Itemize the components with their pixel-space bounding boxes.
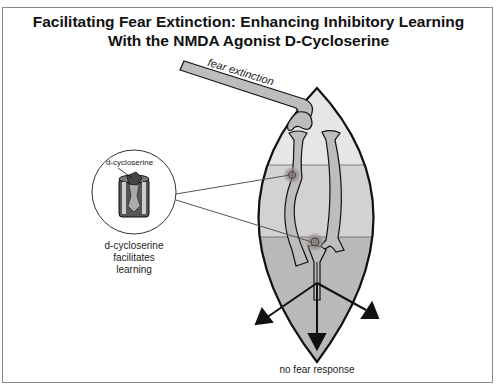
amygdala-lens	[200, 80, 440, 367]
synapse-upper	[283, 166, 301, 184]
inset-caption-line-3: learning	[94, 264, 174, 276]
inset-caption-line-1: d-cycloserine	[94, 240, 174, 252]
inset-caption: d-cycloserine facilitates learning	[94, 240, 174, 276]
inset-caption-line-2: facilitates	[94, 252, 174, 264]
no-fear-response-label: no fear response	[262, 364, 372, 376]
synapse-lower	[305, 232, 325, 252]
inset-drug-label: d-cycloserine	[106, 157, 153, 169]
diagram-canvas	[0, 0, 497, 388]
